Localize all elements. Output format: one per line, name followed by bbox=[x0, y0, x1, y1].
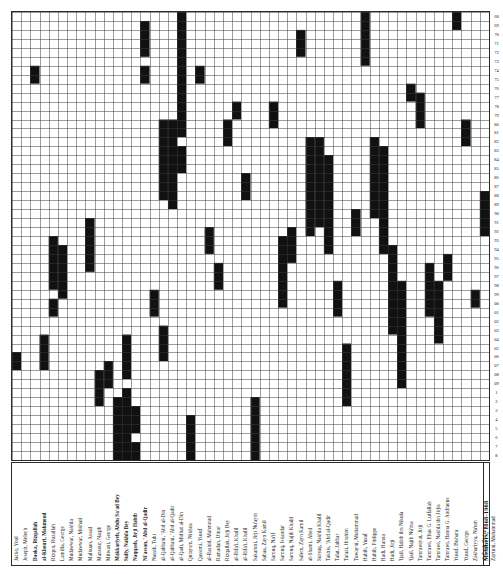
member-label: Zakhariyya, Na'um bbox=[472, 520, 478, 561]
member-label: Tuwayni, Muhammad bbox=[353, 514, 359, 561]
figure-title: Members, 1868-1908 bbox=[483, 501, 489, 561]
member-label: Yusuf, Bishara bbox=[453, 530, 459, 561]
year-tick: 01 bbox=[490, 308, 503, 317]
year-tick: 81 bbox=[490, 128, 503, 137]
year-tick: 85 bbox=[490, 164, 503, 173]
year-tick: 84 bbox=[490, 155, 503, 164]
member-label: Sakaruni, Jirji Nu'aym bbox=[252, 513, 258, 561]
member-label: Jacko, Youl bbox=[13, 536, 19, 561]
year-tick: 83 bbox=[490, 146, 503, 155]
year-tick: 68 bbox=[490, 12, 503, 21]
year-tick: 75 bbox=[490, 75, 503, 84]
year-tick: 07 bbox=[490, 361, 503, 370]
year-tick: 7 bbox=[490, 442, 503, 451]
year-tick: 00 bbox=[490, 299, 503, 308]
year-tick: 90 bbox=[490, 209, 503, 218]
year-tick: 89 bbox=[490, 200, 503, 209]
member-label: 'Ijail, Habib ibn Nikula bbox=[398, 512, 404, 561]
member-label: Salem, Zayn Kamil bbox=[298, 520, 304, 561]
year-tick: 08 bbox=[490, 370, 503, 379]
member-label: Sursuq, Nakhla Khalil bbox=[316, 513, 322, 561]
year-tick: 91 bbox=[490, 218, 503, 227]
year-tick: 79 bbox=[490, 111, 503, 120]
year-tick: 86 bbox=[490, 173, 503, 182]
member-label-panel: Jacko, YoulJoseph, MelechDaoka, Rizqalla… bbox=[11, 462, 490, 566]
year-tick: 03 bbox=[490, 326, 503, 335]
year-tick: 80 bbox=[490, 120, 503, 129]
member-label: Hadi, Jirji bbox=[389, 540, 395, 561]
member-label: Mansour, Naqib bbox=[96, 527, 102, 561]
year-tick: 74 bbox=[490, 66, 503, 75]
member-label: Yusuf, George bbox=[463, 530, 469, 561]
member-label: Ni'assan, 'Abd al-Qadir bbox=[142, 507, 148, 561]
member-label: Makkariyeh, Abdu Sa'ad Bey bbox=[114, 494, 120, 561]
year-tick: 5 bbox=[490, 424, 503, 433]
year-tick: 02 bbox=[490, 317, 503, 326]
member-label: al-Qabbani, 'Abd al-Din bbox=[160, 510, 166, 561]
year-tick: 82 bbox=[490, 137, 503, 146]
year-tick: 3 bbox=[490, 406, 503, 415]
member-label: Ramadan, Umar bbox=[215, 526, 221, 561]
year-tick: 99 bbox=[490, 290, 503, 299]
member-label: Tamrawi, Nakhla ibn Jirjis bbox=[435, 504, 441, 561]
member-label: Lamilla, George bbox=[59, 526, 65, 561]
member-label: Malkuan, Assad bbox=[87, 527, 93, 561]
member-label: Daoka, Rizqallah bbox=[32, 522, 38, 561]
member-label: Rizqon, Ruzallah bbox=[50, 524, 56, 561]
year-tick: 98 bbox=[490, 281, 503, 290]
member-label: Sarouq, Najib Khalil bbox=[288, 517, 294, 561]
year-tick: 77 bbox=[490, 93, 503, 102]
year-tick: 72 bbox=[490, 48, 503, 57]
year-tick: 92 bbox=[490, 227, 503, 236]
year-tick: 78 bbox=[490, 102, 503, 111]
year-axis: 6869707172737475767778798081828384858687… bbox=[490, 11, 503, 461]
membership-grid bbox=[11, 11, 490, 461]
year-tick: 04 bbox=[490, 335, 503, 344]
member-label: Talat, Jabbar bbox=[334, 534, 340, 561]
year-tick: 6 bbox=[490, 433, 503, 442]
member-label: al-Khouri, Mahmoud bbox=[41, 513, 47, 562]
year-tick: 8 bbox=[490, 451, 503, 460]
member-label: Zaytuni, Muhammad bbox=[490, 516, 496, 561]
member-label: Sully, Nakhla Bey bbox=[123, 521, 129, 561]
year-tick: 2 bbox=[490, 397, 503, 406]
year-tick: 09 bbox=[490, 379, 503, 388]
member-label: Mudawwar, Nakhla bbox=[68, 519, 74, 561]
member-label: 'Ijail, Najib Nu'ma bbox=[408, 521, 414, 561]
year-tick: 96 bbox=[490, 263, 503, 272]
year-tick: 93 bbox=[490, 236, 503, 245]
member-label: al-Qadi, Midhat al-Din bbox=[178, 512, 184, 561]
member-label: Habib, Yusuf bbox=[362, 533, 368, 561]
member-label: Nassib, Tubi bbox=[151, 534, 157, 561]
member-label: Tamrawiyat, Jirji bbox=[417, 525, 423, 561]
year-tick: 88 bbox=[490, 191, 503, 200]
member-label: Naqqash, Jirji Habib bbox=[132, 513, 138, 561]
year-tick: 76 bbox=[490, 84, 503, 93]
member-labels: Jacko, YoulJoseph, MelechDaoka, Rizqalla… bbox=[12, 463, 489, 565]
year-tick: 69 bbox=[490, 21, 503, 30]
year-tick: 97 bbox=[490, 272, 503, 281]
year-tick: 94 bbox=[490, 245, 503, 254]
member-label: al-Rifa'i, Khalil bbox=[242, 528, 248, 561]
grid-canvas bbox=[12, 12, 489, 460]
member-label: Rizqallah, Jirji Bey bbox=[224, 520, 230, 561]
member-label: Takhis, 'Abd al-Qadir bbox=[325, 515, 331, 561]
year-tick: 73 bbox=[490, 57, 503, 66]
member-label: al-Shami, Abed bbox=[307, 528, 313, 561]
member-label: Qassimi, Yusuf bbox=[197, 529, 203, 561]
member-label: Sarouq, Iskandar bbox=[279, 525, 285, 561]
year-tick: 4 bbox=[490, 415, 503, 424]
member-label: Mudawwar, Mikhail bbox=[77, 518, 83, 561]
year-tick: 1 bbox=[490, 388, 503, 397]
member-label: Joseph, Melech bbox=[22, 528, 28, 561]
member-label: al-Qabbani, 'Abd al-Qadir bbox=[169, 505, 175, 561]
member-label: Hadi, Hanna bbox=[380, 534, 386, 561]
member-label: Tamrawi, Hanna G. Andraous bbox=[444, 498, 450, 562]
year-tick: 05 bbox=[490, 344, 503, 353]
member-label: Habib, Philippe bbox=[371, 528, 377, 561]
member-label: Tamrawi, Elias G. Lutfallah bbox=[426, 501, 432, 561]
year-tick: 87 bbox=[490, 182, 503, 191]
member-label: Sarouq, Na'if bbox=[270, 533, 276, 561]
figure-sheet: 6869707172737475767778798081828384858687… bbox=[0, 0, 503, 574]
year-tick: 71 bbox=[490, 39, 503, 48]
